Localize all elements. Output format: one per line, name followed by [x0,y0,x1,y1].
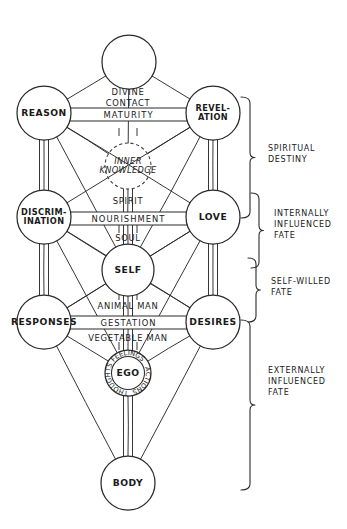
node-ego[interactable]: EGOFEELINGSACTIONSTHOUGHTS [104,349,152,397]
bracket-layer: SPIRITUALDESTINYINTERNALLYINFLUENCEDFATE… [241,97,332,490]
band-label-maturity: MATURITY [103,110,153,120]
bracket-label-self-willed: FATE [271,288,292,297]
bracket-spiritual-destiny [241,97,255,218]
bracket-label-internally-influenced: INTERNALLY [274,209,329,218]
bracket-label-spiritual-destiny: DESTINY [268,155,307,164]
path-label-animal-man: ANIMAL MAN [98,301,159,311]
band-label-nourishment: NOURISHMENT [92,214,166,224]
node-responses[interactable]: RESPONSES [11,295,77,349]
node-label-inner-knowledge: KNOWLEDGE [99,165,157,175]
bracket-externally-influenced [241,320,255,490]
node-label-love: LOVE [199,211,227,222]
bracket-label-externally-influenced: INFLUENCED [268,377,326,386]
bracket-label-spiritual-destiny: SPIRITUAL [268,144,315,153]
bracket-label-self-willed: SELF-WILLED [271,277,331,286]
node-label-desires: DESIRES [189,316,236,327]
bracket-label-externally-influenced: EXTERNALLY [268,366,325,375]
path-label-spirit: SPIRIT [113,196,144,206]
edge-crown-to-revelation [152,76,190,99]
node-love[interactable]: LOVE [186,190,240,244]
node-label-responses: RESPONSES [11,316,77,327]
node-body[interactable]: BODY [101,456,155,510]
edge-crown-to-reason [67,76,106,99]
node-label-revelation: REVEL- [196,103,231,113]
circle-crown [102,35,156,89]
node-self[interactable]: SELF [102,244,154,296]
edge-desires-to-body [141,346,201,459]
tree-of-life-svg: MATURITYNOURISHMENTGESTATION DIVINECONTA… [0,0,347,529]
node-label-body: BODY [113,477,143,488]
band-label-gestation: GESTATION [100,318,156,328]
node-label-self: SELF [114,264,141,275]
node-discrimination[interactable]: DISCRIM-INATION [17,190,71,244]
node-label-discrimination: DISCRIM- [21,207,67,217]
node-label-ego: EGO [116,367,139,378]
bracket-internally-influenced [251,193,263,268]
node-label-reason: REASON [21,107,67,118]
path-label-divine-contact-2: CONTACT [106,98,151,108]
bracket-label-externally-influenced: FATE [268,388,289,397]
path-label-soul: SOUL [115,233,141,243]
bracket-label-internally-influenced: INFLUENCED [274,220,332,229]
node-inner-knowledge[interactable]: INNERKNOWLEDGE [99,143,157,189]
diagram-canvas: MATURITYNOURISHMENTGESTATION DIVINECONTA… [0,0,347,529]
node-label-discrimination: INATION [24,216,65,226]
node-label-revelation: ATION [198,112,228,122]
node-revelation[interactable]: REVEL-ATION [186,86,240,140]
path-label-vegetable-man: VEGETABLE MAN [88,333,168,343]
node-reason[interactable]: REASON [17,86,71,140]
node-crown[interactable] [102,35,156,89]
bracket-label-internally-influenced: FATE [274,231,295,240]
node-desires[interactable]: DESIRES [186,295,240,349]
node-label-inner-knowledge: INNER [114,156,142,166]
